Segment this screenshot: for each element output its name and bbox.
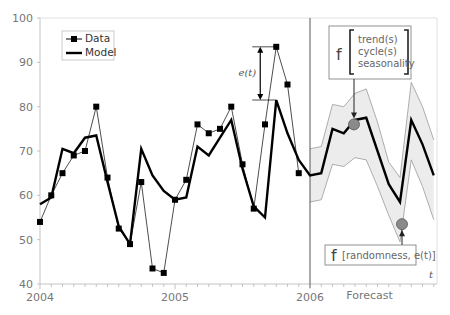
data-point-marker	[240, 161, 246, 167]
x-tick-label: 2004	[26, 291, 54, 304]
data-point-marker	[262, 121, 268, 127]
y-tick-label: 50	[19, 234, 33, 247]
y-tick-label: 90	[19, 56, 33, 69]
forecast-label: Forecast	[346, 289, 393, 302]
legend: Data Model	[62, 31, 117, 60]
systematic-component-label: trend(s)	[358, 34, 398, 45]
data-point-marker	[183, 177, 189, 183]
data-point-marker	[251, 206, 257, 212]
chart: 405060708090100200420052006Forecastt e(t…	[0, 0, 450, 315]
data-point-marker	[71, 152, 77, 158]
data-point-marker	[48, 192, 54, 198]
data-point-marker	[206, 130, 212, 136]
systematic-function-f: f	[336, 45, 342, 64]
legend-data-marker	[71, 36, 77, 42]
data-point-marker	[116, 226, 122, 232]
data-point-marker	[127, 241, 133, 247]
error-arrow-down-icon	[257, 94, 263, 100]
data-point-marker	[93, 104, 99, 110]
y-tick-label: 70	[19, 145, 33, 158]
data-point-marker	[161, 270, 167, 276]
data-point-marker	[296, 170, 302, 176]
x-tick-label: 2006	[296, 291, 324, 304]
forecast-band	[310, 82, 434, 242]
data-point-marker	[150, 265, 156, 271]
systematic-component-label: cycle(s)	[358, 46, 397, 57]
data-point-marker	[138, 179, 144, 185]
data-point-marker	[82, 148, 88, 154]
error-arrow-up-icon	[257, 47, 263, 53]
data-point-marker	[285, 82, 291, 88]
x-tick-label: 2005	[161, 291, 189, 304]
systematic-component-label: seasonality	[358, 58, 415, 69]
error-label: e(t)	[239, 67, 257, 78]
legend-label-data: Data	[85, 32, 110, 44]
random-component-label: [randomness, e(t)]	[342, 250, 436, 261]
data-point-marker	[195, 121, 201, 127]
data-point-marker	[60, 170, 66, 176]
t-axis-label: t	[429, 269, 434, 280]
systematic-point	[349, 119, 360, 130]
legend-label-model: Model	[85, 46, 117, 58]
random-function-f: f	[331, 246, 337, 265]
y-tick-label: 60	[19, 189, 33, 202]
data-point-marker	[37, 219, 43, 225]
y-tick-label: 100	[12, 12, 33, 25]
data-point-marker	[217, 126, 223, 132]
data-point-marker	[228, 104, 234, 110]
data-point-marker	[172, 197, 178, 203]
y-tick-label: 80	[19, 101, 33, 114]
random-point	[397, 219, 408, 230]
data-point-marker	[105, 175, 111, 181]
y-tick-label: 40	[19, 278, 33, 291]
